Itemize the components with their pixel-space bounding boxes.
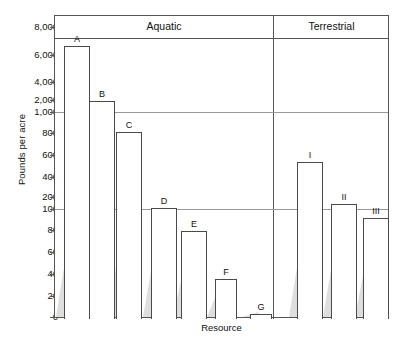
bar-C (116, 132, 142, 319)
bar-label-G: G (250, 302, 272, 312)
bar-D (151, 208, 177, 319)
segmented-log-bar-chart: Pounds per acre 8,0006,0004,0002,0001,00… (0, 0, 395, 342)
x-axis-title: Resource (54, 322, 389, 333)
bar-F (215, 279, 237, 319)
bar-label-F: F (215, 267, 237, 277)
bar-E (181, 231, 207, 319)
bar-G (250, 314, 272, 319)
bar-label-C: C (116, 120, 142, 130)
bar-label-B: B (89, 89, 115, 99)
bar-I (297, 162, 323, 319)
section-title-aquatic: Aquatic (55, 20, 273, 32)
bar-B (89, 101, 115, 319)
bar-label-III: III (363, 206, 389, 216)
bar-III (363, 218, 389, 319)
section-header-band: Aquatic Terrestrial (55, 16, 388, 39)
section-divider (273, 16, 274, 319)
bar-label-A: A (64, 34, 90, 44)
bar-label-D: D (151, 196, 177, 206)
bar-II (331, 204, 357, 319)
bar-label-E: E (181, 219, 207, 229)
plot-area: Aquatic Terrestrial ABCDEFGIIIIII (54, 15, 389, 318)
section-title-terrestrial: Terrestrial (274, 20, 389, 32)
bar-label-I: I (297, 150, 323, 160)
bar-A (64, 46, 90, 319)
bar-label-II: II (331, 192, 357, 202)
